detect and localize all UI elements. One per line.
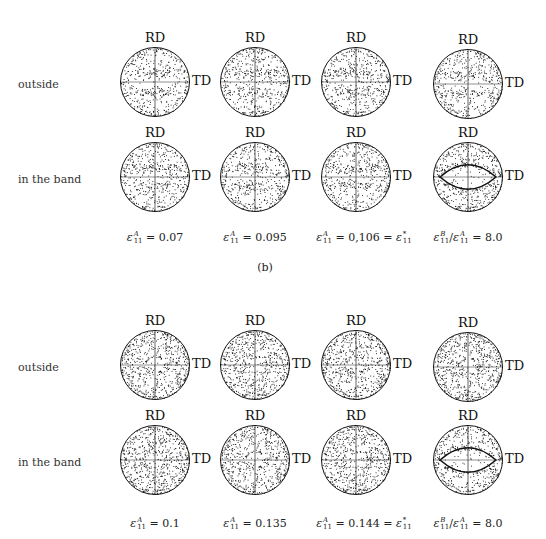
td-axis-label: TD	[393, 356, 412, 371]
pole-figure	[321, 330, 391, 400]
pole-figure	[220, 142, 290, 212]
td-axis-label: TD	[505, 168, 524, 183]
td-axis-label: TD	[192, 73, 211, 88]
td-axis-label: TD	[292, 451, 311, 466]
pole-figure	[120, 142, 190, 212]
row-label-outside: outside	[18, 361, 59, 374]
td-axis-label: TD	[192, 451, 211, 466]
td-axis-label: TD	[505, 75, 524, 90]
rd-axis-label: RD	[245, 313, 265, 328]
rd-axis-label: RD	[458, 315, 478, 330]
pole-figure	[321, 425, 391, 495]
td-axis-label: TD	[292, 73, 311, 88]
panel-label-b: (b)	[257, 261, 273, 274]
td-axis-label: TD	[505, 451, 524, 466]
strain-caption: εA11 = 0,106 = ε*11	[316, 231, 412, 245]
rd-axis-label: RD	[346, 30, 366, 45]
td-axis-label: TD	[393, 451, 412, 466]
pole-figure	[433, 49, 503, 119]
strain-caption: εB11/εA11 = 8.0	[433, 231, 502, 245]
td-axis-label: TD	[393, 168, 412, 183]
pole-figure	[321, 47, 391, 117]
rd-axis-label: RD	[145, 408, 165, 423]
rd-axis-label: RD	[346, 125, 366, 140]
rd-axis-label: RD	[346, 408, 366, 423]
pole-figure	[433, 142, 503, 212]
rd-axis-label: RD	[145, 30, 165, 45]
td-axis-label: TD	[292, 356, 311, 371]
rd-axis-label: RD	[145, 313, 165, 328]
pole-figure	[120, 47, 190, 117]
row-label-in-band: in the band	[18, 456, 81, 469]
pole-figure	[220, 425, 290, 495]
td-axis-label: TD	[505, 358, 524, 373]
row-label-in-band: in the band	[18, 173, 81, 186]
rd-axis-label: RD	[145, 125, 165, 140]
rd-axis-label: RD	[245, 408, 265, 423]
rd-axis-label: RD	[458, 125, 478, 140]
td-axis-label: TD	[292, 168, 311, 183]
pole-figure	[321, 142, 391, 212]
strain-caption: εA11 = 0.135	[223, 517, 287, 531]
pole-figure	[220, 47, 290, 117]
td-axis-label: TD	[393, 73, 412, 88]
pole-figure	[220, 330, 290, 400]
rd-axis-label: RD	[458, 32, 478, 47]
strain-caption: εA11 = 0.1	[130, 517, 180, 531]
pole-figure	[433, 425, 503, 495]
pole-figure	[120, 330, 190, 400]
rd-axis-label: RD	[346, 313, 366, 328]
strain-caption: εB11/εA11 = 8.0	[433, 517, 502, 531]
strain-caption: εA11 = 0.07	[127, 231, 184, 245]
pole-figure	[120, 425, 190, 495]
rd-axis-label: RD	[458, 408, 478, 423]
rd-axis-label: RD	[245, 30, 265, 45]
td-axis-label: TD	[192, 356, 211, 371]
strain-caption: εA11 = 0.144 = ε*11	[316, 517, 412, 531]
row-label-outside: outside	[18, 78, 59, 91]
rd-axis-label: RD	[245, 125, 265, 140]
pole-figure	[433, 332, 503, 402]
strain-caption: εA11 = 0.095	[223, 231, 287, 245]
td-axis-label: TD	[192, 168, 211, 183]
